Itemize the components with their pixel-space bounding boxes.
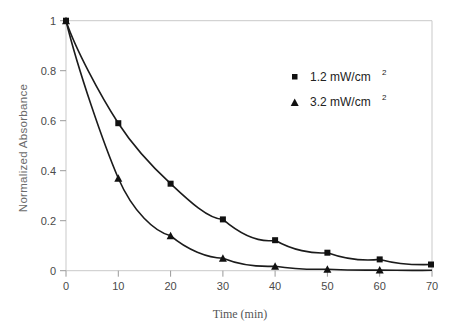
x-tick-label-3: 30 — [217, 280, 229, 292]
legend-entry-1-label: 1.2 mW/cm — [310, 70, 371, 84]
data-point — [220, 216, 226, 222]
x-tick-label-7: 70 — [426, 280, 438, 292]
x-tick-label-0: 0 — [63, 280, 69, 292]
chart-figure: 0 0.2 0.4 0.6 0.8 1 0 10 20 30 40 50 60 — [0, 0, 461, 334]
y-axis-title: Normalized Absorbance — [17, 84, 29, 212]
data-point — [377, 256, 383, 262]
data-point — [115, 120, 121, 126]
legend-square-marker-icon — [292, 74, 298, 80]
x-tick-label-5: 50 — [321, 280, 333, 292]
x-tick-label-4: 40 — [269, 280, 281, 292]
chart-background — [0, 0, 461, 334]
legend-entry-2-label: 3.2 mW/cm — [310, 95, 371, 109]
legend-entry-2-superscript: 2 — [382, 93, 387, 102]
y-tick-label-3: 0.6 — [41, 115, 56, 127]
chart-svg: 0 0.2 0.4 0.6 0.8 1 0 10 20 30 40 50 60 — [0, 0, 461, 334]
x-tick-label-1: 10 — [112, 280, 124, 292]
y-tick-label-2: 0.4 — [41, 165, 56, 177]
x-tick-label-2: 20 — [164, 280, 176, 292]
data-point — [168, 181, 174, 187]
legend-entry-1-superscript: 2 — [382, 68, 387, 77]
data-point — [428, 262, 434, 268]
x-tick-label-6: 60 — [374, 280, 386, 292]
x-axis-title: Time (min) — [213, 307, 268, 321]
data-point — [324, 250, 330, 256]
y-tick-label-5: 1 — [50, 15, 56, 27]
y-tick-label-0: 0 — [50, 265, 56, 277]
data-point — [272, 237, 278, 243]
y-tick-label-1: 0.2 — [41, 215, 56, 227]
y-tick-label-4: 0.8 — [41, 65, 56, 77]
